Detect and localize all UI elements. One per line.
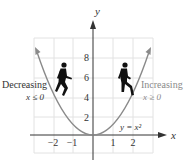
x-tick-label: −1 bbox=[67, 137, 78, 148]
decreasing-label: Decreasing bbox=[2, 79, 47, 90]
y-tick-label: 6 bbox=[84, 72, 89, 83]
function-label: y = x² bbox=[119, 122, 142, 132]
walking-up-person-icon bbox=[118, 62, 134, 95]
x-tick-labels: −2 −1 1 2 bbox=[48, 137, 136, 148]
y-tick-label: 4 bbox=[84, 92, 89, 103]
x-tick-label: 1 bbox=[111, 137, 116, 148]
x-axis-label: x bbox=[170, 129, 176, 141]
y-axis-label: y bbox=[94, 5, 100, 17]
increasing-label: Increasing bbox=[141, 79, 183, 90]
x-axis-arrow-icon bbox=[158, 132, 167, 138]
parabola-diagram: −2 −1 1 2 2 4 6 8 y x y = x² Decreasing … bbox=[0, 0, 188, 160]
decreasing-condition: x ≤ 0 bbox=[25, 92, 44, 102]
x-tick-label: −2 bbox=[48, 137, 59, 148]
y-axis-arrow-icon bbox=[90, 20, 96, 29]
y-tick-labels: 2 4 6 8 bbox=[84, 52, 89, 123]
y-tick-label: 8 bbox=[84, 52, 89, 63]
increasing-condition: x ≥ 0 bbox=[142, 92, 161, 102]
walking-down-person-icon bbox=[55, 62, 72, 96]
x-tick-label: 2 bbox=[131, 137, 136, 148]
y-tick-label: 2 bbox=[84, 112, 89, 123]
